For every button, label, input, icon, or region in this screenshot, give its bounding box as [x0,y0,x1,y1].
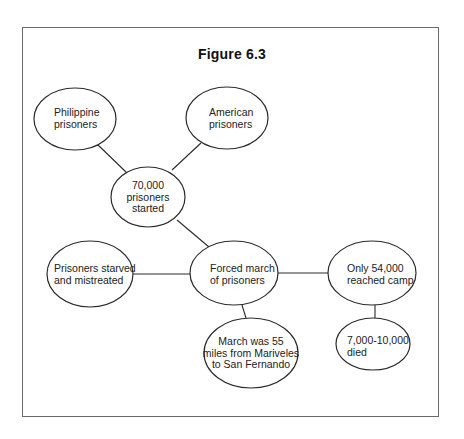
label-philippine-prisoners: Philippine prisoners [54,107,100,130]
concept-map [0,0,464,439]
label-died: 7,000-10,000 died [347,335,409,358]
edge-started-march [177,220,209,247]
label-prisoners-started: 70,000 prisoners started [118,180,178,215]
label-march-distance: March was 55 miles from Mariveles to San… [201,336,301,371]
edge-march-distance [242,305,246,318]
label-prisoners-starved: Prisoners starved and mistreated [54,263,136,286]
label-american-prisoners: American prisoners [209,107,253,130]
edge-american-started [172,143,201,170]
label-forced-march: Forced march of prisoners [210,263,275,286]
label-reached-camp: Only 54,000 reached camp [347,263,414,286]
edge-philippine-started [97,144,126,172]
